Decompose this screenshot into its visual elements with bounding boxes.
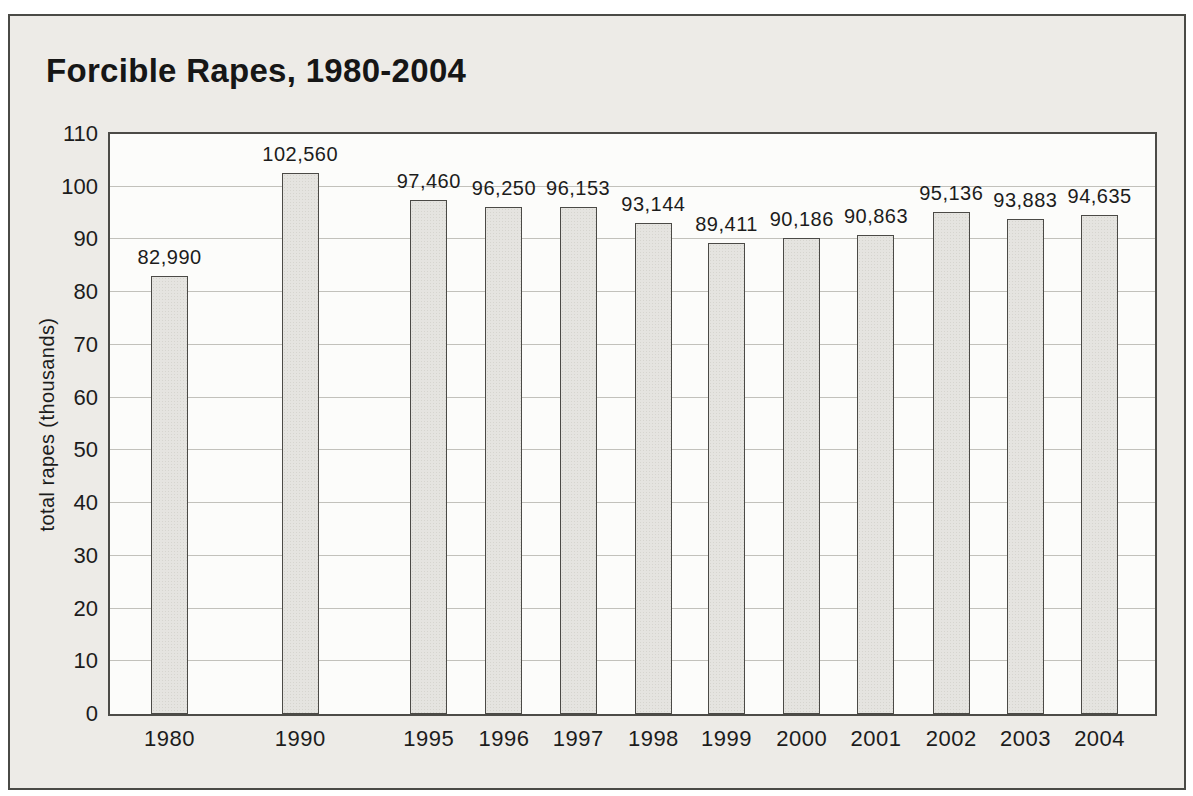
x-tick-label-1980: 1980	[115, 726, 225, 752]
bar-1990	[282, 173, 319, 714]
x-tick-label-1990: 1990	[245, 726, 355, 752]
y-tick-label-90: 90	[10, 226, 98, 252]
gridline-40	[110, 502, 1155, 503]
gridline-70	[110, 344, 1155, 345]
gridline-90	[110, 238, 1155, 239]
bar-value-label-1980: 82,990	[137, 246, 201, 269]
bar-1998	[635, 223, 672, 714]
y-tick-label-80: 80	[10, 279, 98, 305]
bar-value-label-2002: 95,136	[919, 182, 983, 205]
bar-value-label-2003: 93,883	[993, 189, 1057, 212]
y-tick-label-100: 100	[10, 174, 98, 200]
bar-value-label-1995: 97,460	[397, 170, 461, 193]
gridline-60	[110, 397, 1155, 398]
chart-title: Forcible Rapes, 1980-2004	[46, 52, 466, 90]
bar-2004	[1081, 215, 1118, 714]
gridline-30	[110, 555, 1155, 556]
y-tick-label-10: 10	[10, 648, 98, 674]
bar-2001	[857, 235, 894, 714]
y-tick-label-40: 40	[10, 490, 98, 516]
gridline-80	[110, 291, 1155, 292]
plot-area: 82,990102,56097,46096,25096,15393,14489,…	[108, 132, 1157, 716]
bar-2002	[933, 212, 970, 714]
bar-value-label-1997: 96,153	[546, 177, 610, 200]
gridline-20	[110, 608, 1155, 609]
figure-frame: Forcible Rapes, 1980-2004 total rapes (t…	[8, 14, 1186, 790]
y-tick-label-30: 30	[10, 543, 98, 569]
bar-value-label-1990: 102,560	[262, 143, 338, 166]
y-axis-title-wrap: total rapes (thousands)	[10, 132, 86, 716]
bar-value-label-2004: 94,635	[1068, 185, 1132, 208]
bar-1996	[485, 207, 522, 715]
bar-value-label-2001: 90,863	[844, 205, 908, 228]
bar-1999	[708, 243, 745, 714]
y-tick-label-0: 0	[10, 701, 98, 727]
y-tick-label-110: 110	[10, 121, 98, 147]
bar-value-label-1996: 96,250	[472, 177, 536, 200]
gridline-10	[110, 660, 1155, 661]
x-tick-label-2004: 2004	[1045, 726, 1155, 752]
bar-1997	[560, 207, 597, 714]
y-tick-label-50: 50	[10, 437, 98, 463]
bar-2000	[783, 238, 820, 714]
bar-1980	[151, 276, 188, 714]
bar-value-label-1999: 89,411	[695, 213, 758, 236]
bar-value-label-2000: 90,186	[770, 208, 834, 231]
y-tick-label-70: 70	[10, 332, 98, 358]
y-tick-label-60: 60	[10, 385, 98, 411]
gridline-100	[110, 186, 1155, 187]
y-tick-label-20: 20	[10, 596, 98, 622]
bar-2003	[1007, 219, 1044, 714]
bar-1995	[410, 200, 447, 714]
gridline-50	[110, 449, 1155, 450]
bar-value-label-1998: 93,144	[621, 193, 685, 216]
